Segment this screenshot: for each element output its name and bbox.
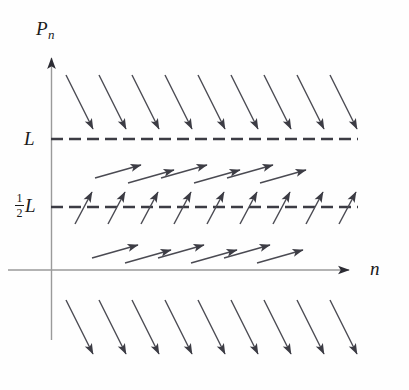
y-axis-label: Pn [36, 18, 55, 43]
slope-arrow [231, 300, 258, 354]
reference-label-half-L-letter: L [25, 195, 36, 217]
slope-arrow [231, 75, 258, 129]
x-axis-label: n [370, 258, 380, 280]
slope-arrow [198, 300, 225, 354]
slope-arrow [297, 75, 324, 129]
slope-arrow [330, 300, 357, 354]
y-axis-label-subscript: n [48, 27, 55, 42]
arrow-field-group [66, 75, 357, 354]
slope-arrow [132, 300, 159, 354]
slope-arrow [92, 245, 138, 258]
slope-arrow [198, 75, 225, 129]
y-axis-label-main: P [36, 18, 48, 39]
slope-arrow [132, 75, 159, 129]
slope-arrow [330, 75, 357, 129]
slope-arrow [165, 300, 192, 354]
slope-arrow [165, 75, 192, 129]
reference-lines-group [51, 139, 358, 207]
slope-arrow [264, 300, 291, 354]
fraction-denominator: 2 [16, 207, 24, 219]
axes-group [8, 58, 349, 340]
slope-arrow [66, 300, 93, 354]
fraction-one-half: 1 2 [15, 192, 24, 219]
slope-arrow [99, 300, 126, 354]
slope-field-figure: Pn n L 1 2 L [0, 0, 409, 390]
slope-arrow [257, 250, 303, 263]
reference-label-L: L [24, 128, 35, 150]
slope-field-canvas [0, 0, 409, 390]
slope-arrow [297, 300, 324, 354]
slope-arrow [66, 75, 93, 129]
reference-label-half-L: 1 2 L [15, 192, 36, 219]
fraction-numerator: 1 [16, 192, 24, 204]
slope-arrow [260, 170, 306, 183]
slope-arrow [99, 75, 126, 129]
slope-arrow [95, 165, 141, 178]
slope-arrow [264, 75, 291, 129]
